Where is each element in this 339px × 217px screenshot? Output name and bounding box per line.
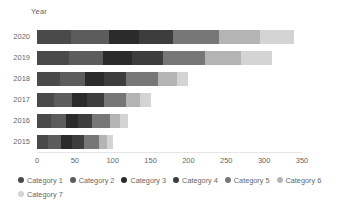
legend-label: Category 2 — [79, 176, 115, 185]
bar-segment — [177, 72, 188, 86]
legend-swatch-icon — [70, 177, 76, 183]
bar-segment — [158, 72, 177, 86]
bar-segment — [37, 114, 51, 128]
x-tick-label: 250 — [220, 156, 233, 165]
legend-item[interactable]: Category 4 — [173, 175, 218, 185]
bar-row — [37, 30, 294, 44]
x-tick-label: 300 — [258, 156, 271, 165]
bar-row — [37, 135, 113, 149]
y-tick-label: 2017 — [13, 95, 30, 104]
bar-segment — [104, 93, 127, 107]
legend-label: Category 4 — [182, 176, 218, 185]
x-tick-label: 350 — [296, 156, 309, 165]
bar-segment — [48, 135, 61, 149]
legend-item[interactable]: Category 2 — [70, 175, 115, 185]
bar-segment — [205, 51, 241, 65]
x-tick-label: 200 — [182, 156, 195, 165]
bar-segment — [37, 30, 71, 44]
legend-swatch-icon — [277, 177, 283, 183]
bar-segment — [37, 51, 69, 65]
bar-segment — [241, 51, 271, 65]
y-tick-label: 2015 — [13, 137, 30, 146]
bar-row — [37, 93, 151, 107]
y-axis-title: Year — [31, 7, 47, 16]
bar-segment — [99, 135, 107, 149]
legend-item[interactable]: Category 3 — [121, 175, 166, 185]
bar-row — [37, 51, 272, 65]
bar-segment — [78, 114, 92, 128]
x-axis-line — [37, 152, 302, 153]
legend-swatch-icon — [173, 177, 179, 183]
bar-segment — [54, 93, 72, 107]
bar-segment — [84, 135, 99, 149]
bar-segment — [72, 135, 84, 149]
x-tick-label: 100 — [106, 156, 119, 165]
bar-segment — [109, 30, 139, 44]
legend-label: Category 6 — [286, 176, 322, 185]
legend-swatch-icon — [121, 177, 127, 183]
plot-area — [37, 26, 302, 152]
chart-legend: Category 1Category 2Category 3Category 4… — [18, 175, 336, 203]
stacked-bar-chart: Year 202020192018201720162015 0501001502… — [0, 0, 339, 217]
x-axis-tick-labels: 050100150200250300350 — [0, 156, 339, 168]
bar-row — [37, 72, 188, 86]
y-tick-label: 2018 — [13, 74, 30, 83]
bar-segment — [126, 93, 140, 107]
bar-segment — [61, 135, 72, 149]
bar-segment — [60, 72, 85, 86]
legend-swatch-icon — [18, 177, 24, 183]
bar-segment — [219, 30, 261, 44]
bar-segment — [132, 51, 164, 65]
legend-label: Category 1 — [27, 176, 63, 185]
bar-segment — [260, 30, 294, 44]
legend-item[interactable]: Category 1 — [18, 175, 63, 185]
bar-segment — [87, 93, 104, 107]
x-tick-label: 150 — [144, 156, 157, 165]
x-tick-label: 0 — [35, 156, 39, 165]
bar-segment — [120, 114, 128, 128]
bar-segment — [140, 93, 151, 107]
bar-segment — [110, 114, 121, 128]
legend-label: Category 5 — [234, 176, 270, 185]
y-tick-label: 2019 — [13, 53, 30, 62]
legend-item[interactable]: Category 7 — [18, 189, 63, 199]
legend-swatch-icon — [225, 177, 231, 183]
legend-swatch-icon — [18, 191, 24, 197]
y-tick-label: 2016 — [13, 116, 30, 125]
bar-segment — [71, 30, 109, 44]
y-axis-tick-labels: 202020192018201720162015 — [0, 26, 34, 152]
bar-segment — [51, 114, 66, 128]
legend-item[interactable]: Category 5 — [225, 175, 270, 185]
bar-segment — [104, 72, 127, 86]
bar-rows — [37, 26, 302, 152]
bar-segment — [126, 72, 158, 86]
bar-segment — [163, 51, 205, 65]
bar-segment — [139, 30, 173, 44]
bar-segment — [37, 93, 54, 107]
y-tick-label: 2020 — [13, 32, 30, 41]
bar-segment — [69, 51, 103, 65]
bar-segment — [92, 114, 110, 128]
legend-label: Category 3 — [130, 176, 166, 185]
bar-segment — [72, 93, 87, 107]
legend-item[interactable]: Category 6 — [277, 175, 322, 185]
bar-segment — [103, 51, 132, 65]
bar-segment — [37, 72, 60, 86]
bar-row — [37, 114, 128, 128]
bar-segment — [85, 72, 104, 86]
bar-segment — [66, 114, 78, 128]
bar-segment — [107, 135, 113, 149]
legend-label: Category 7 — [27, 190, 63, 199]
x-tick-label: 50 — [71, 156, 79, 165]
bar-segment — [37, 135, 48, 149]
bar-segment — [173, 30, 218, 44]
